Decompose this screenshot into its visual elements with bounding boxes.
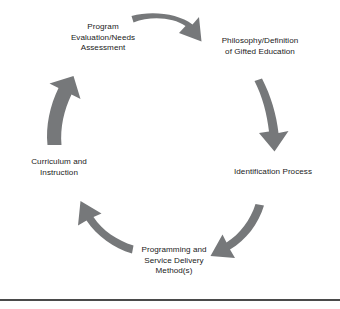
node-label-curriculum-instruction: Curriculum and Instruction bbox=[7, 157, 111, 178]
cycle-diagram: Program Evaluation/Needs Assessment Phil… bbox=[0, 0, 340, 309]
bottom-divider-rule bbox=[0, 299, 340, 301]
node-label-identification-process: Identification Process bbox=[209, 167, 337, 178]
node-label-programming-service-delivery: Programming and Service Delivery Method(… bbox=[120, 245, 228, 277]
arrow-curriculum-to-evaluation bbox=[47, 76, 80, 145]
arrow-philosophy-to-identification bbox=[255, 79, 289, 152]
node-label-program-evaluation: Program Evaluation/Needs Assessment bbox=[41, 22, 165, 54]
node-label-philosophy: Philosophy/Definition of Gifted Educatio… bbox=[189, 36, 331, 57]
